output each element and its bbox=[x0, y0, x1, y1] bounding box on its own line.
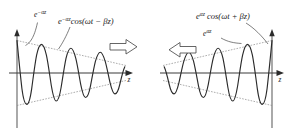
wave-figure: z e−αz e−αzcos(ωt − βz) z bbox=[0, 0, 290, 131]
right-z-axis-label: z bbox=[278, 76, 282, 84]
right-wave-label: eαz cos(ωt + βz) bbox=[196, 11, 250, 21]
left-z-axis-label: z bbox=[127, 76, 131, 84]
